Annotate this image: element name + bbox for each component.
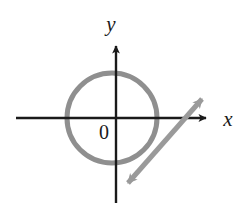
x-axis-label: x <box>222 107 233 131</box>
coordinate-plane-figure: y x 0 <box>0 0 246 210</box>
figure-canvas: y x 0 <box>0 0 246 210</box>
y-axis-label: y <box>104 12 116 36</box>
origin-label: 0 <box>99 121 109 143</box>
double-headed-arrow <box>128 99 202 183</box>
